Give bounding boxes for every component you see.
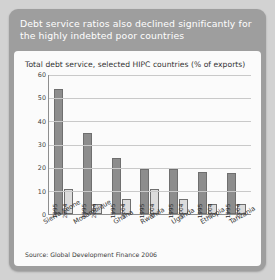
y-axis: 0102030405060 (24, 75, 46, 215)
bar-1995: 1995 (198, 172, 207, 214)
figure-header: Debt service ratios also declined signif… (9, 9, 266, 49)
plot-area: 0102030405060 19952004199520041995200419… (14, 75, 255, 215)
y-tick-label: 60 (28, 71, 46, 79)
chart-title: Total debt service, selected HIPC countr… (25, 60, 245, 69)
y-tick-label: 20 (28, 164, 46, 172)
gridline (49, 145, 251, 146)
gridline (49, 121, 251, 122)
header-line-1: Debt service ratios also declined signif… (20, 18, 255, 30)
bar-1995: 1995 (54, 89, 63, 214)
y-tick-label: 40 (28, 118, 46, 126)
y-tick-label: 30 (28, 141, 46, 149)
gridline (49, 191, 251, 192)
header-line-2: the highly indebted poor countries (20, 30, 255, 42)
figure-panel: Debt service ratios also declined signif… (9, 9, 266, 271)
chart-card: Total debt service, selected HIPC countr… (14, 51, 261, 266)
gridline (49, 98, 251, 99)
y-tick-label: 10 (28, 188, 46, 196)
plot-canvas: 1995200419952004199520041995200419952004… (48, 75, 251, 215)
y-tick-label: 50 (28, 94, 46, 102)
gridline (49, 75, 251, 76)
source-note: Source: Global Development Finance 2006 (25, 251, 157, 258)
gridline (49, 168, 251, 169)
